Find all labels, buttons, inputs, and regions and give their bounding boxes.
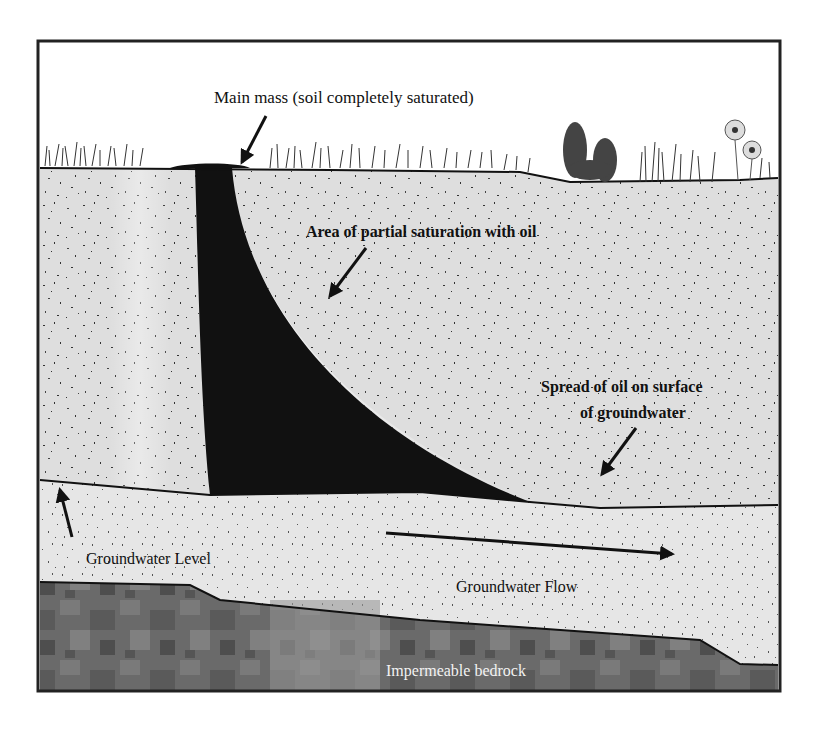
label-partial-saturation: Area of partial saturation with oil <box>306 223 536 241</box>
label-spread-line2: of groundwater <box>580 404 686 422</box>
label-groundwater-level: Groundwater Level <box>86 550 211 568</box>
label-bedrock: Impermeable bedrock <box>386 662 526 680</box>
label-main-mass: Main mass (soil completely saturated) <box>214 88 474 108</box>
oil-spill-groundwater-diagram <box>0 0 820 753</box>
label-groundwater-flow: Groundwater Flow <box>456 578 577 596</box>
label-spread-line1: Spread of oil on surface <box>541 378 702 396</box>
